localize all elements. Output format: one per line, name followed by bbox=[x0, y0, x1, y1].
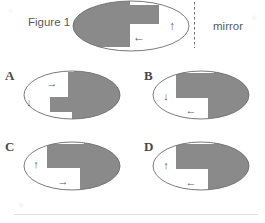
figure-caption: Figure 1 bbox=[28, 16, 70, 28]
option-d-label: D bbox=[144, 139, 153, 154]
option-c-inner-square-arrow: → bbox=[58, 175, 69, 187]
reference-outer-field-arrow: ↑ bbox=[169, 19, 175, 33]
option-a-outer-field-arrow: ↓ bbox=[26, 96, 32, 108]
option-b-inner-square-arrow: ← bbox=[186, 104, 197, 116]
reference-inner-square-arrow: ← bbox=[133, 30, 145, 44]
option-a-inner-square-arrow: → bbox=[47, 77, 58, 89]
option-d-outer-field-arrow: ↑ bbox=[163, 159, 169, 171]
mirror-label: mirror bbox=[213, 20, 243, 32]
option-b-label: B bbox=[144, 68, 153, 83]
option-b-outer-field-arrow: ↓ bbox=[163, 90, 169, 102]
option-d-inner-square-arrow: ← bbox=[186, 176, 197, 188]
option-c-outer-field-arrow: ↑ bbox=[33, 158, 39, 170]
figure-canvas: Figure 1 ← ↑ mirror A bbox=[0, 0, 265, 223]
option-a-label: A bbox=[5, 68, 15, 83]
option-c-label: C bbox=[5, 139, 14, 154]
